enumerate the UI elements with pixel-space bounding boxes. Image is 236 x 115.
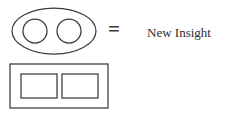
equals-sign-top: =: [108, 19, 120, 40]
ellipse-with-two-circles-shape: [10, 6, 98, 56]
inner-circle-left: [23, 19, 47, 43]
rectangle-with-two-rectangles-shape: [7, 61, 111, 111]
inner-rectangle-right: [62, 74, 98, 98]
outer-rectangle: [10, 64, 108, 108]
equivalence-row-ellipse: = New Insight: [0, 0, 236, 58]
equivalence-row-rectangle: = New Insight: [0, 58, 236, 115]
outer-ellipse: [12, 8, 96, 54]
label-new-insight-top: New Insight: [147, 26, 211, 39]
diagram-canvas: = New Insight = New Insight: [0, 0, 236, 115]
inner-rectangle-left: [21, 74, 57, 98]
inner-circle-right: [57, 19, 81, 43]
